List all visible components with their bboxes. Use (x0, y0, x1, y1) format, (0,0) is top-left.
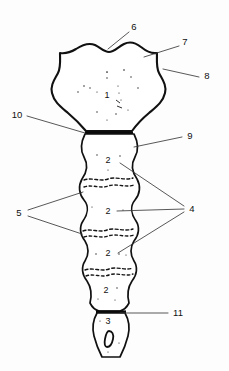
leader-5a (28, 192, 83, 210)
callout-label-5: 5 (16, 207, 21, 218)
anatomy-figure-container: 6 7 8 9 10 11 5 4 1 2 2 2 2 3 (0, 0, 229, 371)
terminal-foramen (105, 331, 114, 347)
inner-label-2d: 2 (103, 285, 108, 295)
anatomy-diagram: 6 7 8 9 10 11 5 4 1 2 2 2 2 3 (0, 0, 229, 371)
inner-label-1: 1 (104, 90, 109, 100)
callout-label-4: 4 (189, 203, 194, 214)
leader-8 (163, 69, 199, 77)
inner-label-3: 3 (105, 316, 110, 326)
leader-5b (28, 216, 82, 234)
inner-label-2c: 2 (105, 248, 110, 258)
callout-label-8: 8 (204, 70, 209, 81)
inner-label-2a: 2 (105, 155, 110, 165)
callout-label-6: 6 (131, 21, 136, 32)
callout-label-9: 9 (187, 130, 192, 141)
callout-label-11: 11 (173, 307, 183, 318)
callout-label-7: 7 (182, 36, 187, 47)
callout-label-10: 10 (12, 109, 23, 120)
leader-9 (134, 137, 182, 147)
inner-label-2b: 2 (105, 206, 110, 216)
